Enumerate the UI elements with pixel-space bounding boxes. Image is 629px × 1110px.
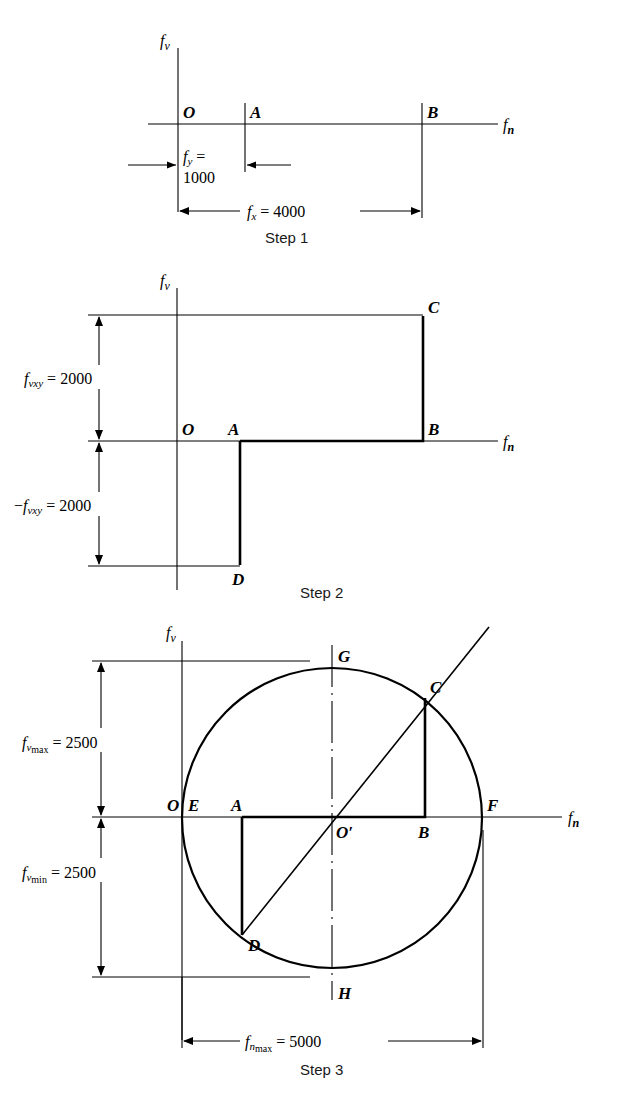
step3-point-label-h: H [337, 984, 352, 1003]
step3-point-label-f: F [486, 796, 499, 815]
step1-dim-label-fy-line2: 1000 [183, 169, 215, 186]
step1-point-label-a: A [249, 103, 261, 122]
mohrs-circle-figure: fv fn O A B fy = 1000 fx = 4000 Step 1 [0, 0, 629, 1110]
step3-axis-label-fn: fn [568, 809, 579, 830]
step2-caption: Step 2 [300, 584, 343, 601]
step1-caption: Step 1 [265, 229, 308, 246]
step3-point-label-d: D [247, 936, 260, 955]
step2-point-label-d: D [231, 570, 244, 589]
step1-axis-label-fv: fv [160, 32, 170, 53]
step3-path-abc [242, 698, 425, 817]
step1-fy-dimension [128, 162, 291, 169]
step1-point-label-b: B [426, 103, 438, 122]
step2-dim-label-fvxy-negative: −fvxy = 2000 [14, 497, 91, 516]
step1-diagram: fv fn O A B fy = 1000 fx = 4000 Step 1 [128, 32, 514, 246]
step3-point-label-o-prime: O′ [336, 823, 353, 842]
step3-point-label-b: B [417, 823, 429, 842]
step1-dim-label-fx: fx = 4000 [247, 203, 305, 222]
step1-dim-label-fy-line1: fy = [183, 148, 205, 167]
step2-path-abc [240, 316, 423, 441]
step1-axis-label-fn: fn [503, 116, 514, 137]
step3-point-label-c: C [430, 678, 442, 697]
step2-axis-label-fv: fv [160, 272, 170, 293]
step2-point-label-c: C [428, 298, 440, 317]
step3-diagram: fv fn O E A O′ B F C D G H fvmax = 2500 … [18, 624, 579, 1078]
step3-axis-label-fv: fv [166, 624, 176, 645]
step3-point-label-o: O [167, 796, 179, 815]
step2-axis-label-fn: fn [503, 433, 514, 454]
step3-fvmin-dimension [18, 818, 168, 976]
step2-diagram: fv fn O A B C D fvxy = 2000 −fvxy = 2000… [12, 272, 514, 601]
step3-point-label-e: E [187, 796, 199, 815]
step2-point-label-a: A [227, 420, 239, 439]
step1-point-label-o: O [183, 103, 195, 122]
step2-point-label-o: O [182, 420, 194, 439]
step2-point-label-b: B [427, 420, 439, 439]
step3-fnmax-dimension [183, 1030, 482, 1052]
step3-point-label-a: A [230, 796, 242, 815]
step3-caption: Step 3 [300, 1061, 343, 1078]
step3-point-label-g: G [338, 647, 351, 666]
step3-diagonal-dc [242, 627, 489, 935]
